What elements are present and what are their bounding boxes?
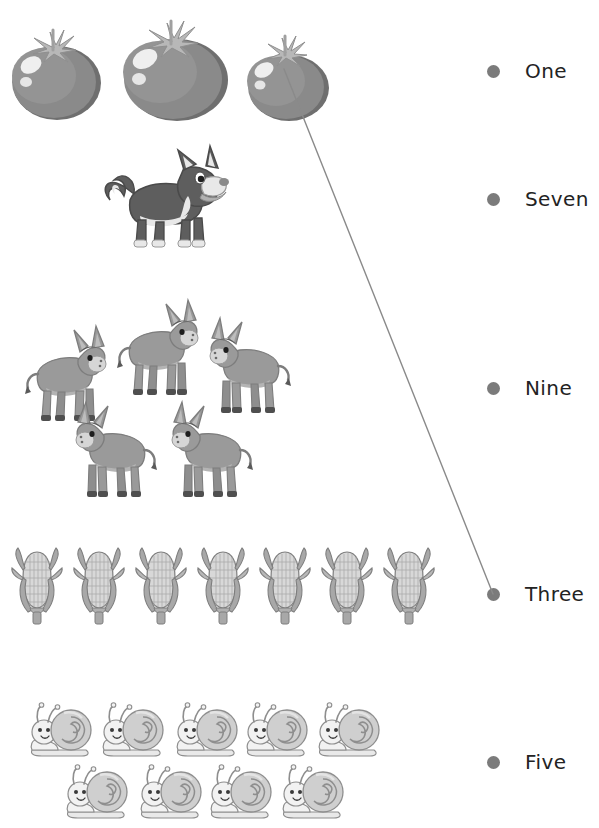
option-nine[interactable]: Nine (487, 373, 572, 403)
option-dot-seven[interactable] (487, 193, 500, 206)
option-dot-nine[interactable] (487, 382, 500, 395)
corn-icon (132, 540, 190, 628)
option-label-seven: Seven (525, 187, 589, 211)
option-dot-one[interactable] (487, 65, 500, 78)
corn-icon (70, 540, 128, 628)
donkey-icon (110, 292, 208, 404)
snail-icon (134, 762, 206, 824)
donkey-icon (66, 394, 164, 506)
option-dot-three[interactable] (487, 588, 500, 601)
option-dot-five[interactable] (487, 756, 500, 769)
corn-icon (8, 540, 66, 628)
donkey-icon (162, 394, 260, 506)
connector-line-tomatoes-three[interactable] (284, 69, 493, 594)
option-three[interactable]: Three (487, 579, 584, 609)
snail-icon (276, 762, 348, 824)
object-group-donkeys[interactable] (10, 292, 290, 512)
option-label-nine: Nine (525, 376, 572, 400)
tomato-icon (4, 20, 110, 124)
option-label-one: One (525, 59, 567, 83)
object-group-snails[interactable] (0, 696, 380, 828)
object-group-tomatoes[interactable] (4, 12, 336, 124)
snail-icon (60, 762, 132, 824)
dog-icon (88, 138, 228, 258)
option-label-three: Three (525, 582, 584, 606)
corn-icon (380, 540, 438, 628)
option-one[interactable]: One (487, 56, 567, 86)
worksheet-canvas: One Seven Nine Three Five (0, 0, 599, 828)
option-seven[interactable]: Seven (487, 184, 589, 214)
object-group-dogs[interactable] (88, 138, 228, 258)
corn-icon (318, 540, 376, 628)
snail-icon (312, 700, 384, 762)
tomato-icon (114, 12, 236, 124)
snail-icon (96, 700, 168, 762)
corn-icon (256, 540, 314, 628)
option-label-five: Five (525, 750, 566, 774)
tomato-icon (240, 26, 336, 124)
option-five[interactable]: Five (487, 747, 566, 777)
snail-icon (240, 700, 312, 762)
snail-icon (170, 700, 242, 762)
snail-icon (24, 700, 96, 762)
snail-icon (204, 762, 276, 824)
object-group-corn[interactable] (8, 540, 438, 628)
corn-icon (194, 540, 252, 628)
